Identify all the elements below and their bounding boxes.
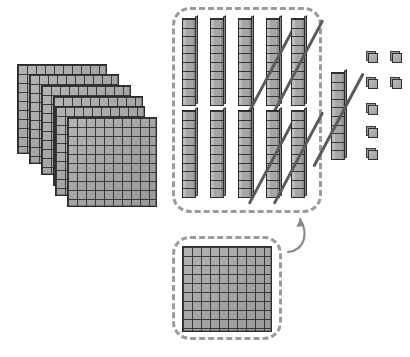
- hundred-flat: [67, 117, 157, 207]
- diagram-canvas: Base-ten blocks regrouping: [0, 0, 410, 357]
